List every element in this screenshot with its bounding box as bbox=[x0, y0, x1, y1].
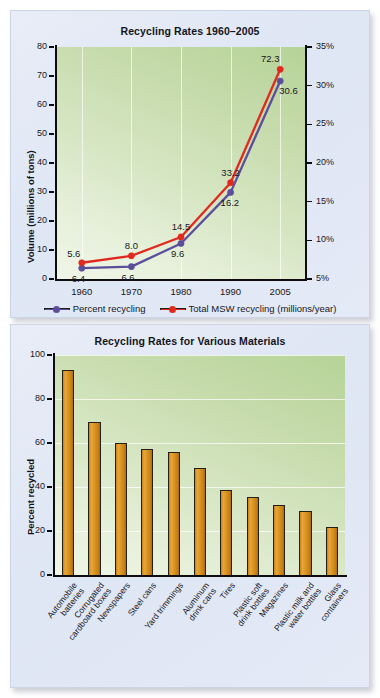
data-label-percent-recycling: 30.6 bbox=[279, 85, 298, 96]
data-label-percent-recycling: 6.4 bbox=[72, 273, 85, 284]
data-label-total-msw: 8.0 bbox=[109, 240, 153, 251]
y-tick bbox=[47, 398, 52, 400]
bar-chart-plot-area bbox=[55, 355, 345, 575]
bar-chart-title: Recycling Rates for Various Materials bbox=[11, 335, 369, 347]
gridline-horizontal bbox=[55, 399, 345, 400]
y-tick-label: 100 bbox=[17, 349, 45, 359]
data-label-total-msw: 33.2 bbox=[209, 167, 253, 178]
y-tick bbox=[47, 574, 52, 576]
y-tick bbox=[47, 530, 52, 532]
bar-chart-panel: Recycling Rates for Various Materials Pe… bbox=[10, 324, 370, 688]
data-label-total-msw: 72.3 bbox=[248, 53, 292, 64]
bar[interactable] bbox=[141, 449, 153, 576]
figure-root: Recycling Rates 1960–2005 Volume (millio… bbox=[0, 0, 380, 698]
bar[interactable] bbox=[88, 422, 100, 575]
line-chart-panel: Recycling Rates 1960–2005 Volume (millio… bbox=[10, 10, 370, 318]
bar[interactable] bbox=[299, 511, 311, 575]
y-tick bbox=[47, 486, 52, 488]
bar[interactable] bbox=[115, 443, 127, 575]
data-label-percent-recycling: 16.2 bbox=[221, 197, 240, 208]
legend-marker-purple bbox=[44, 304, 70, 314]
bar[interactable] bbox=[220, 490, 232, 575]
y-tick-label: 80 bbox=[17, 393, 45, 403]
y-tick-label: 0 bbox=[17, 569, 45, 579]
data-label-percent-recycling: 6.6 bbox=[121, 272, 134, 283]
y-tick bbox=[47, 354, 52, 356]
legend-item-total-msw-recycling[interactable]: Total MSW recycling (millions/year) bbox=[160, 303, 337, 314]
gridline-horizontal bbox=[55, 355, 345, 356]
bar[interactable] bbox=[168, 452, 180, 575]
bar[interactable] bbox=[194, 468, 206, 575]
y-tick-label: 60 bbox=[17, 437, 45, 447]
y-tick bbox=[47, 442, 52, 444]
bar[interactable] bbox=[326, 527, 338, 575]
legend-item-percent-recycling[interactable]: Percent recycling bbox=[44, 303, 146, 314]
y-tick-label: 40 bbox=[17, 481, 45, 491]
bar[interactable] bbox=[273, 505, 285, 575]
bar-chart-y-axis-label: Percent recycled bbox=[25, 459, 36, 535]
bar[interactable] bbox=[247, 497, 259, 575]
legend-label-total-msw-recycling: Total MSW recycling (millions/year) bbox=[189, 303, 337, 314]
legend-marker-red bbox=[160, 304, 186, 314]
bar-chart-left-axis bbox=[53, 353, 55, 577]
bar[interactable] bbox=[62, 370, 74, 575]
line-chart-legend: Percent recycling Total MSW recycling (m… bbox=[11, 303, 369, 314]
data-label-total-msw: 5.6 bbox=[52, 248, 96, 259]
bar-chart-bottom-axis bbox=[53, 575, 347, 577]
legend-label-percent-recycling: Percent recycling bbox=[73, 303, 146, 314]
data-label-percent-recycling: 9.6 bbox=[171, 248, 184, 259]
line-chart-series-layer bbox=[11, 11, 371, 319]
y-tick-label: 20 bbox=[17, 525, 45, 535]
data-label-total-msw: 14.5 bbox=[159, 221, 203, 232]
